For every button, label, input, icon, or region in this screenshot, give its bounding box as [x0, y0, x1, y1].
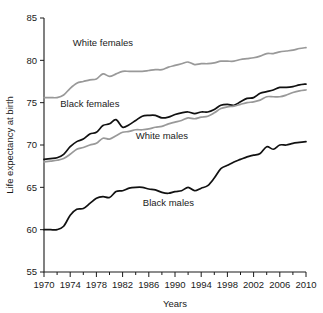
chart-canvas: 5560657075808519701974197819821986199019… [0, 0, 323, 313]
x-tick-label: 1974 [60, 279, 81, 290]
series-line-white-females [44, 48, 306, 98]
y-tick-label: 70 [26, 139, 37, 150]
series-label-black-males: Black males [143, 197, 194, 208]
y-tick-label: 80 [26, 55, 37, 66]
x-tick-label: 1998 [217, 279, 238, 290]
y-tick-label: 65 [26, 182, 37, 193]
series-label-white-females: White females [73, 37, 133, 48]
life-expectancy-chart: 5560657075808519701974197819821986199019… [0, 0, 323, 313]
y-axis-title: Life expectancy at birth [4, 96, 15, 194]
x-tick-label: 2002 [243, 279, 264, 290]
x-tick-label: 2010 [295, 279, 316, 290]
series-label-black-females: Black females [60, 98, 119, 109]
x-tick-label: 1970 [33, 279, 54, 290]
y-tick-label: 75 [26, 97, 37, 108]
x-tick-label: 1978 [86, 279, 107, 290]
x-tick-label: 1986 [138, 279, 159, 290]
series-line-black-males [44, 142, 306, 230]
x-tick-label: 2006 [269, 279, 290, 290]
x-tick-label: 1994 [191, 279, 212, 290]
axis-frame [44, 18, 306, 272]
x-axis-title: Years [163, 298, 187, 309]
x-tick-label: 1982 [112, 279, 133, 290]
y-tick-label: 55 [26, 266, 37, 277]
series-label-white-males: White males [136, 130, 189, 141]
y-tick-label: 85 [26, 12, 37, 23]
x-tick-label: 1990 [164, 279, 185, 290]
y-tick-label: 60 [26, 224, 37, 235]
